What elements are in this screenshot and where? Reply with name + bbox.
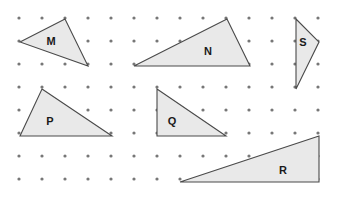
grid-dot [132,16,135,19]
triangle-r [180,136,319,182]
grid-dot [17,85,20,88]
grid-dot [155,154,158,157]
triangle-label-n: N [204,45,212,57]
grid-dot [109,85,112,88]
grid-dot [63,85,66,88]
grid-dot [178,85,181,88]
grid-dot [247,154,250,157]
grid-dot [247,39,250,42]
grid-dot [201,16,204,19]
grid-dot [201,108,204,111]
grid-dot [40,177,43,180]
grid-dot [86,39,89,42]
grid-dot [17,131,20,134]
grid-dot [86,154,89,157]
triangle-label-r: R [279,164,287,176]
triangle-q [157,89,226,136]
grid-dot [132,85,135,88]
grid-dot [178,16,181,19]
grid-dot [247,108,250,111]
grid-dot [17,16,20,19]
grid-dot [224,108,227,111]
triangle-s [296,19,319,89]
grid-dot [86,177,89,180]
grid-dot [155,39,158,42]
grid-dot [40,16,43,19]
grid-dot [155,16,158,19]
grid-dot [316,62,319,65]
grid-dot [132,39,135,42]
grid-dot [132,177,135,180]
grid-dot [132,131,135,134]
grid-dot [270,108,273,111]
grid-dot [178,154,181,157]
grid-dot [201,154,204,157]
triangle-label-q: Q [168,115,177,127]
grid-dot [109,154,112,157]
grid-dot [178,177,181,180]
grid-dot [63,154,66,157]
grid-dot [132,108,135,111]
grid-dot [270,39,273,42]
grid-dot [109,108,112,111]
grid-dot [17,177,20,180]
grid-dot [224,85,227,88]
grid-dot [270,85,273,88]
grid-dot [109,16,112,19]
grid-dot [270,131,273,134]
figure-canvas: MNSPQR [0,0,337,200]
grid-dot [247,85,250,88]
triangle-n [134,19,250,66]
grid-dot [316,108,319,111]
grid-dot [316,16,319,19]
grid-dot [86,85,89,88]
grid-dot [316,131,319,134]
triangle-label-p: P [46,115,53,127]
grid-dot [40,62,43,65]
grid-dot [316,85,319,88]
grid-dot [109,62,112,65]
grid-dot [247,131,250,134]
grid-dot [40,154,43,157]
grid-dot [270,62,273,65]
grid-dot [109,177,112,180]
grid-dot [86,108,89,111]
grid-dot [155,85,158,88]
grid-dot [40,85,43,88]
grid-dot [293,108,296,111]
grid-dot [270,16,273,19]
grid-dot [63,177,66,180]
grid-dot [201,85,204,88]
grid-dot [17,154,20,157]
grid-dot [224,131,227,134]
grid-dot [224,154,227,157]
grid-dot [132,154,135,157]
triangle-label-m: M [46,35,55,47]
grid-dot [155,177,158,180]
grid-dot [17,108,20,111]
grid-dot [247,16,250,19]
grid-dot [17,62,20,65]
grid-dot [86,16,89,19]
grid-dot [293,131,296,134]
grid-dot [109,39,112,42]
grid-dot [63,62,66,65]
dot-grid-triangles-figure: MNSPQR [0,0,337,200]
triangle-label-s: S [299,36,306,48]
triangle-p [20,89,112,136]
